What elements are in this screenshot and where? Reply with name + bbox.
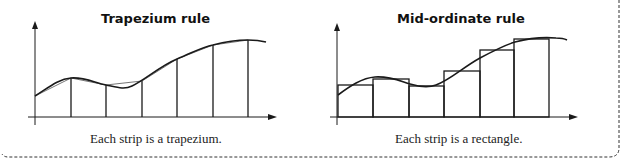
y-axis-arrow-icon: [334, 23, 340, 31]
ordinates: [71, 40, 248, 117]
trapezium-caption: Each strip is a trapezium.: [90, 131, 222, 147]
y-axis-arrow-icon: [32, 21, 38, 29]
mid-ordinate-panel: [330, 23, 578, 125]
x-axis-arrow-icon: [569, 114, 578, 120]
mid-ordinate-caption: Each strip is a rectangle.: [395, 131, 522, 147]
trapezium-title: Trapezium rule: [101, 11, 210, 26]
curve: [35, 40, 266, 96]
x-axis-arrow-icon: [268, 114, 277, 120]
trapezium-panel: [28, 21, 277, 125]
mid-ordinate-title: Mid-ordinate rule: [397, 11, 525, 26]
